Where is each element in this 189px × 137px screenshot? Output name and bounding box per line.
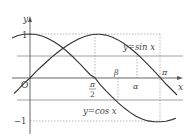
y-tick-one: 1 xyxy=(22,30,27,40)
y-axis-arrow-icon xyxy=(28,16,32,22)
half-pi-numerator: π xyxy=(89,80,96,89)
alpha-label: α xyxy=(133,82,139,91)
sine-curve-label: y=sin x xyxy=(122,42,155,52)
y-tick-minus-one: −1 xyxy=(14,116,27,126)
pi-tick: π xyxy=(161,68,168,77)
half-pi-denominator: 2 xyxy=(90,90,95,99)
cosine-curve-label: y=cos x xyxy=(82,106,117,116)
origin-label: O xyxy=(21,80,28,90)
trig-graph: y x O 1 −1 π 2 π β α y=sin x y=cos x xyxy=(0,0,189,137)
x-axis-arrow-icon xyxy=(177,76,183,80)
y-axis-label: y xyxy=(22,14,29,24)
x-axis-label: x xyxy=(178,82,183,92)
beta-label: β xyxy=(113,68,119,77)
